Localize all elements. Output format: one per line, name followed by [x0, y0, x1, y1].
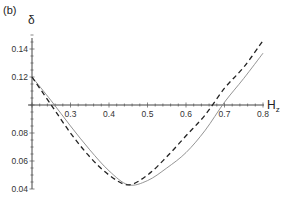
y-tick-label: 0.08: [11, 128, 28, 138]
panel-label: (b): [3, 4, 16, 16]
x-tick-label: 0.5: [142, 109, 154, 119]
y-axis-label: δ: [28, 13, 35, 27]
y-tick-label: 0.06: [11, 156, 28, 166]
y-tick-label: 0.04: [11, 184, 28, 194]
line-chart: (b) δ 0.30.40.50.60.70.80.040.060.080.12…: [0, 0, 289, 204]
x-tick-label: 0.7: [219, 109, 231, 119]
x-tick-label: 0.4: [103, 109, 115, 119]
x-tick-label: 0.6: [180, 109, 192, 119]
axes: 0.30.40.50.60.70.80.040.060.080.120.14: [11, 35, 269, 194]
y-tick-label: 0.14: [11, 44, 28, 54]
x-tick-label: 0.3: [65, 109, 77, 119]
series-solid-line: [32, 53, 263, 185]
x-axis-label: Hz: [267, 98, 280, 114]
y-tick-label: 0.12: [11, 72, 28, 82]
